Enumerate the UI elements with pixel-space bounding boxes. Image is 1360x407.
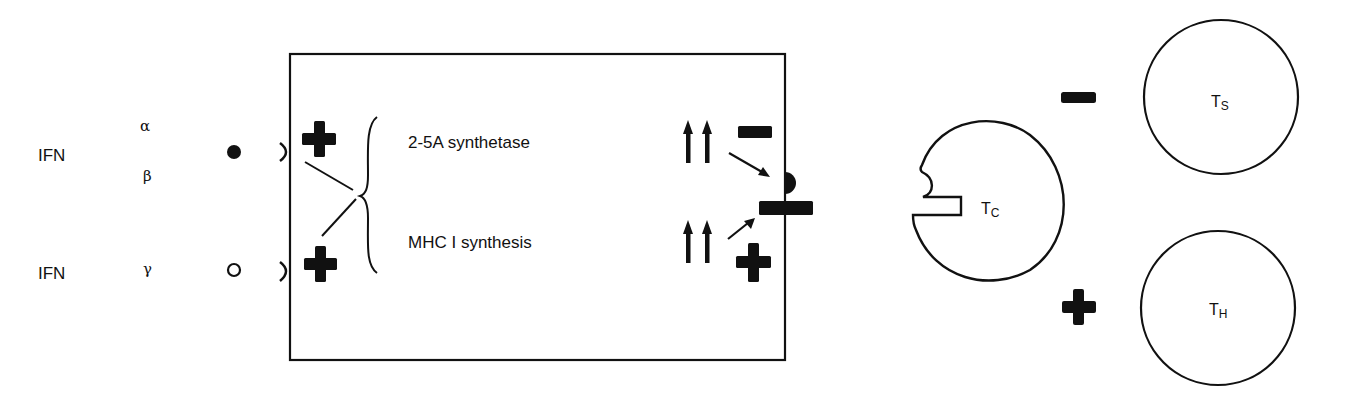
- double-up-arrow-icon: [683, 220, 712, 263]
- ts-label: TS: [1211, 93, 1229, 113]
- mhc-bar: [759, 201, 813, 215]
- ifn-label-alpha-beta: IFN: [38, 146, 65, 166]
- ifn-alpha-beta-marker: [227, 145, 241, 159]
- arrow-line: [728, 223, 748, 239]
- diagram-canvas: [0, 0, 1360, 407]
- mhc-surface-molecule: [785, 172, 796, 194]
- minus-icon: [1061, 92, 1096, 103]
- ifn-gamma-marker: [228, 264, 240, 276]
- tc-label: TC: [981, 200, 999, 220]
- process-label-mhc-synthesis: MHC I synthesis: [408, 233, 532, 253]
- alpha-label: α: [140, 117, 150, 135]
- th-label: TH: [1209, 301, 1227, 321]
- gamma-label: γ: [143, 260, 152, 278]
- target-cell-box: [290, 54, 785, 360]
- connector-line: [322, 199, 356, 236]
- beta-label: β: [143, 167, 152, 185]
- double-up-arrow-icon: [683, 120, 712, 163]
- minus-icon: [738, 126, 772, 138]
- receptor-arc-top: [280, 143, 286, 161]
- process-label-2-5a-synthetase: 2-5A synthetase: [408, 133, 530, 153]
- plus-icon: [1062, 289, 1096, 325]
- ifn-label-gamma: IFN: [38, 264, 65, 284]
- connector-line: [305, 162, 353, 190]
- brace: [360, 117, 377, 273]
- plus-icon: [304, 246, 337, 282]
- arrow-line: [729, 153, 762, 172]
- receptor-arc-bottom: [280, 262, 286, 281]
- plus-icon: [302, 121, 336, 157]
- plus-icon: [736, 243, 771, 282]
